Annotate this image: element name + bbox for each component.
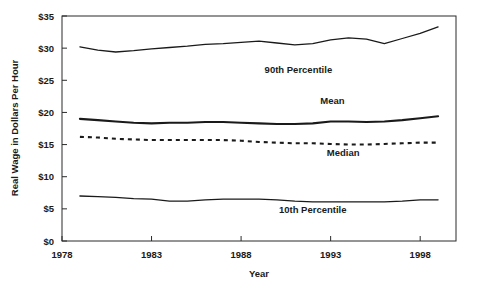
y-tick-label: $0 [43, 236, 54, 247]
series-line-90th-percentile [80, 27, 438, 52]
x-axis-title: Year [249, 268, 269, 279]
x-axis-tick-labels: 19781983198819931998 [51, 249, 430, 260]
x-tick-label: 1993 [320, 249, 341, 260]
series-label-10th-percentile: 10th Percentile [279, 204, 347, 215]
line-chart: $0$5$10$15$20$25$30$35 19781983198819931… [0, 0, 483, 292]
y-tick-label: $25 [38, 75, 55, 86]
y-axis-title: Real Wage in Dollars Per Hour [9, 60, 20, 197]
series-label-mean: Mean [320, 95, 344, 106]
x-tick-label: 1978 [51, 249, 72, 260]
plot-frame [62, 16, 456, 241]
y-tick-label: $35 [38, 11, 55, 22]
y-tick-label: $30 [38, 43, 54, 54]
series-line-10th-percentile [80, 196, 438, 202]
y-tick-label: $10 [38, 171, 54, 182]
y-tick-label: $15 [38, 139, 55, 150]
series-label-90th-percentile: 90th Percentile [265, 64, 333, 75]
y-tick-label: $20 [38, 107, 54, 118]
x-axis-ticks [62, 236, 420, 241]
y-tick-label: $5 [43, 203, 54, 214]
x-tick-label: 1998 [410, 249, 431, 260]
series-annotation-labels: 90th PercentileMeanMedian10th Percentile [265, 64, 360, 215]
series-line-median [80, 137, 438, 145]
series-line-mean [80, 116, 438, 124]
x-tick-label: 1983 [141, 249, 162, 260]
y-axis-ticks [62, 16, 67, 241]
chart-container: $0$5$10$15$20$25$30$35 19781983198819931… [0, 0, 483, 292]
data-series-group [80, 27, 438, 202]
series-label-median: Median [327, 147, 360, 158]
plot-border [62, 16, 456, 241]
y-axis-tick-labels: $0$5$10$15$20$25$30$35 [38, 11, 55, 247]
x-tick-label: 1988 [231, 249, 252, 260]
